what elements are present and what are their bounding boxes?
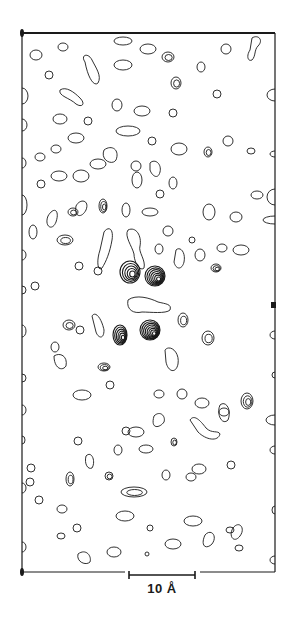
contour-blob bbox=[190, 418, 220, 440]
contour-peak bbox=[73, 390, 91, 400]
contour-peak bbox=[145, 552, 149, 556]
contour-peak bbox=[75, 262, 83, 270]
contour-blob bbox=[128, 297, 171, 313]
contour-ring bbox=[215, 267, 219, 270]
contour-peak bbox=[177, 389, 187, 399]
contour-peak bbox=[235, 545, 243, 551]
contour-peak bbox=[73, 524, 81, 532]
contour-peak bbox=[45, 71, 53, 79]
contour-blob bbox=[92, 314, 104, 337]
contour-peak bbox=[51, 171, 67, 181]
contour-peak bbox=[132, 172, 142, 188]
contour-peak bbox=[74, 437, 82, 445]
contour-peak bbox=[37, 180, 45, 188]
contour-blob bbox=[85, 454, 93, 468]
contour-peak bbox=[128, 427, 144, 437]
contour-blob bbox=[150, 161, 160, 176]
contour-ring bbox=[152, 332, 156, 336]
contour-peak bbox=[142, 208, 158, 216]
contour-peak bbox=[233, 245, 249, 255]
contour-peak bbox=[169, 109, 177, 117]
contour-blob bbox=[83, 55, 99, 84]
contour-edge-arc bbox=[22, 88, 28, 104]
contour-peak bbox=[247, 148, 255, 154]
contour-peak bbox=[203, 204, 215, 220]
contour-edge-arc bbox=[267, 89, 275, 101]
contour-edge-arc bbox=[270, 151, 275, 157]
contour-blob bbox=[153, 414, 164, 427]
contour-ring bbox=[61, 238, 71, 244]
contour-peak bbox=[114, 37, 132, 45]
contour-peak bbox=[192, 464, 206, 474]
contour-peak bbox=[147, 525, 153, 531]
contour-ring bbox=[205, 334, 212, 342]
contour-peak bbox=[30, 50, 42, 60]
contour-edge-arc bbox=[22, 195, 27, 215]
contour-peak bbox=[163, 226, 173, 236]
contour-blob bbox=[174, 249, 184, 268]
contour-peak bbox=[58, 43, 68, 51]
contour-edge-arc bbox=[267, 189, 275, 205]
right-edge-tick bbox=[271, 302, 276, 308]
scale-bar-label: 10 Å bbox=[128, 581, 196, 596]
contour-blob bbox=[127, 229, 144, 269]
contour-peak bbox=[155, 244, 163, 254]
contour-edge-arc bbox=[22, 119, 27, 131]
contour-peak bbox=[223, 136, 233, 146]
contour-peak bbox=[230, 212, 242, 222]
contour-peak bbox=[217, 244, 227, 252]
contour-peak bbox=[51, 342, 59, 352]
contour-peak bbox=[184, 516, 202, 526]
corner-markers bbox=[20, 29, 276, 576]
contour-peak bbox=[189, 237, 195, 243]
contour-ring bbox=[121, 335, 124, 340]
contour-ring bbox=[173, 440, 177, 445]
scale-bar bbox=[129, 571, 195, 579]
contour-peak bbox=[57, 533, 65, 539]
contour-peak bbox=[140, 44, 156, 54]
contour-ring bbox=[127, 490, 143, 496]
contour-peak bbox=[27, 464, 35, 472]
contour-ring bbox=[165, 55, 172, 61]
contour-peak bbox=[195, 398, 209, 408]
contour-peak bbox=[251, 191, 263, 199]
contour-ring bbox=[66, 323, 73, 329]
contour-peak bbox=[29, 225, 37, 239]
contour-blob bbox=[47, 210, 57, 227]
contour-peak bbox=[116, 511, 134, 521]
contour-edge-arc bbox=[266, 415, 275, 425]
contour-edge-arc bbox=[270, 446, 275, 454]
contour-peak bbox=[73, 170, 89, 182]
contour-peak bbox=[35, 496, 43, 504]
contour-map bbox=[0, 0, 292, 620]
contour-peak bbox=[68, 133, 84, 143]
contour-peak bbox=[53, 114, 67, 124]
contour-ring bbox=[206, 150, 211, 156]
contour-ring bbox=[181, 316, 187, 324]
contour-peak bbox=[169, 177, 177, 189]
contour-peak bbox=[219, 408, 229, 416]
contour-peak bbox=[122, 203, 130, 217]
contour-peak bbox=[112, 99, 122, 111]
contour-peak bbox=[57, 505, 67, 513]
contour-peak bbox=[94, 267, 102, 275]
contour-blob bbox=[78, 552, 91, 564]
contour-peak bbox=[107, 547, 121, 557]
contour-blob bbox=[98, 229, 113, 269]
contour-ring bbox=[246, 399, 251, 406]
contour-peak bbox=[90, 159, 106, 169]
contour-peak bbox=[31, 282, 39, 290]
contour-peak bbox=[139, 445, 153, 453]
corner-marker-bottom-left bbox=[20, 568, 24, 576]
contour-edge-arc bbox=[270, 331, 275, 339]
contour-ring bbox=[103, 366, 108, 369]
contour-ring bbox=[68, 475, 73, 483]
contour-peak bbox=[221, 44, 231, 54]
contour-edge-arc bbox=[263, 216, 275, 224]
contour-peak bbox=[171, 143, 187, 155]
contour-blob bbox=[248, 37, 261, 61]
density-contours bbox=[22, 37, 275, 564]
contour-peak bbox=[154, 390, 164, 398]
corner-marker-top-left bbox=[20, 29, 24, 37]
contour-ring bbox=[174, 80, 180, 87]
